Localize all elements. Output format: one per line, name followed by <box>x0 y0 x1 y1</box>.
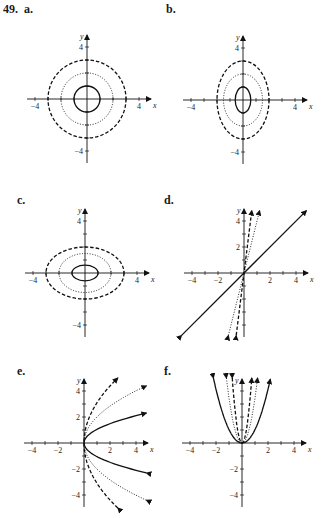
y-tick-label: 4 <box>79 43 83 52</box>
chart-panel-c: −444−4xy <box>25 206 155 337</box>
x-tick-label: 4 <box>137 102 141 111</box>
x-axis-label: x <box>150 275 155 284</box>
x-tick-label: −4 <box>31 102 40 111</box>
chart-panel-e: −4−22442−2−4xy <box>24 376 154 508</box>
y-tick-label: −2 <box>229 465 238 474</box>
x-tick-label: −4 <box>29 276 38 285</box>
x-tick-label: −4 <box>188 276 197 285</box>
x-axis-label: x <box>152 101 157 110</box>
x-tick-label: −4 <box>28 446 37 455</box>
y-axis-label: y <box>77 206 82 215</box>
x-axis-label: x <box>309 275 314 284</box>
x-tick-label: 2 <box>268 276 272 285</box>
y-tick-label: 2 <box>236 243 240 252</box>
x-axis-label: x <box>308 102 313 111</box>
figure-canvas: −444−4xy−444−4xy−444−4xy−4−22442xy−4−224… <box>0 0 328 518</box>
chart-panel-f: −4−224−2−4xy <box>182 376 312 507</box>
y-tick-label: −4 <box>72 321 81 330</box>
x-axis-label: x <box>149 445 154 454</box>
x-tick-label: 2 <box>108 446 112 455</box>
y-tick-label: 4 <box>76 387 80 396</box>
x-tick-label: −4 <box>187 103 196 112</box>
x-tick-label: −2 <box>54 446 63 455</box>
y-axis-label: y <box>76 376 81 385</box>
x-tick-label: −2 <box>212 446 221 455</box>
y-tick-label: 4 <box>235 44 239 53</box>
y-axis-label: y <box>236 206 241 215</box>
x-tick-label: −2 <box>214 276 223 285</box>
chart-panel-d: −4−22442xy <box>182 206 314 337</box>
chart-panel-b: −444−4xy <box>183 33 313 164</box>
x-tick-label: 2 <box>266 446 270 455</box>
y-tick-label: −4 <box>74 147 83 156</box>
panels-group: −444−4xy−444−4xy−444−4xy−4−22442xy−4−224… <box>24 32 314 508</box>
x-axis-label: x <box>307 445 312 454</box>
y-axis-label: y <box>235 33 240 42</box>
y-tick-label: 4 <box>236 217 240 226</box>
x-tick-label: 4 <box>135 276 139 285</box>
x-tick-label: −4 <box>186 446 195 455</box>
x-tick-label: 4 <box>294 276 298 285</box>
y-tick-label: 4 <box>77 217 81 226</box>
y-tick-label: 2 <box>76 413 80 422</box>
y-tick-label: −4 <box>230 148 239 157</box>
x-tick-label: 4 <box>293 103 297 112</box>
x-tick-label: 4 <box>134 446 138 455</box>
y-axis-label: y <box>234 376 239 385</box>
y-tick-label: −2 <box>71 465 80 474</box>
x-tick-label: 4 <box>292 446 296 455</box>
y-axis-label: y <box>79 32 84 41</box>
y-tick-label: −4 <box>71 491 80 500</box>
chart-panel-a: −444−4xy <box>27 32 157 163</box>
y-tick-label: −4 <box>229 491 238 500</box>
